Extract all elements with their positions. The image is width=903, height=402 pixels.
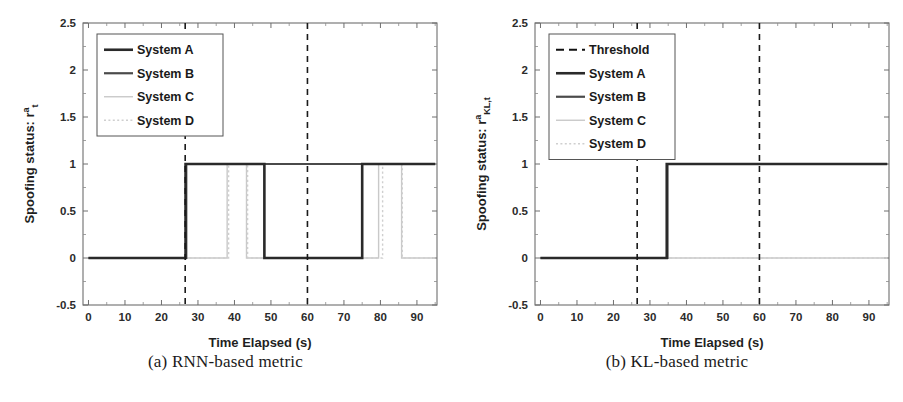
panel-b: 0102030405060708090-0.500.511.522.5Time …: [452, 0, 903, 402]
x-tick-label: 10: [119, 311, 132, 323]
legend-label-system-b: System B: [589, 90, 646, 104]
x-tick-label: 40: [228, 311, 241, 323]
y-tick-label: -0.5: [508, 299, 528, 311]
x-tick-label: 20: [155, 311, 168, 323]
x-axis-title: Time Elapsed (s): [660, 335, 763, 350]
x-tick-label: 80: [374, 311, 387, 323]
legend: ThresholdSystem ASystem BSystem CSystem …: [549, 34, 675, 160]
legend-label-system-a: System A: [589, 67, 646, 81]
x-axis-title: Time Elapsed (s): [208, 335, 311, 350]
x-tick-label: 20: [607, 311, 620, 323]
x-tick-label: 10: [570, 311, 583, 323]
legend-label-system-c: System C: [589, 114, 646, 128]
panel-a: 0102030405060708090-0.500.511.522.5Time …: [0, 0, 452, 402]
legend-label-system-d: System D: [589, 137, 646, 151]
x-tick-label: 70: [789, 311, 802, 323]
x-tick-label: 40: [680, 311, 693, 323]
figure-container: 0102030405060708090-0.500.511.522.5Time …: [0, 0, 903, 402]
panel-b-caption: (b) KL-based metric: [452, 352, 903, 372]
x-tick-label: 30: [643, 311, 656, 323]
y-tick-label: 1.5: [60, 111, 77, 123]
y-tick-label: 0: [70, 252, 76, 264]
y-tick-label: 1.5: [512, 111, 529, 123]
x-tick-label: 50: [716, 311, 729, 323]
y-tick-label: 2.5: [60, 17, 77, 29]
x-tick-label: 30: [192, 311, 205, 323]
legend-label-system-a: System A: [137, 43, 194, 57]
y-tick-label: 0: [521, 252, 527, 264]
legend-label-system-d: System D: [137, 114, 194, 128]
y-tick-label: 1: [521, 158, 528, 170]
x-tick-label: 50: [265, 311, 278, 323]
x-tick-label: 0: [537, 311, 543, 323]
x-tick-label: 60: [753, 311, 766, 323]
y-tick-label: 0.5: [512, 205, 529, 217]
legend-label-system-c: System C: [137, 90, 194, 104]
panel-a-chart: 0102030405060708090-0.500.511.522.5Time …: [0, 0, 451, 352]
x-tick-label: 0: [85, 311, 91, 323]
y-tick-label: -0.5: [56, 299, 76, 311]
legend: System ASystem BSystem CSystem D: [97, 34, 223, 136]
y-tick-label: 2: [70, 64, 76, 76]
x-tick-label: 60: [301, 311, 314, 323]
x-tick-label: 90: [411, 311, 424, 323]
panel-b-chart: 0102030405060708090-0.500.511.522.5Time …: [452, 0, 903, 352]
y-axis-title: Spoofing status: raKL,t: [473, 97, 492, 231]
y-tick-label: 2: [521, 64, 527, 76]
panel-a-caption: (a) RNN-based metric: [0, 352, 451, 372]
y-tick-label: 1: [70, 158, 77, 170]
y-tick-label: 2.5: [512, 17, 529, 29]
legend-label-system-b: System B: [137, 67, 194, 81]
y-axis-title: Spoofing status: rat: [21, 104, 40, 223]
y-tick-label: 0.5: [60, 205, 77, 217]
legend-label-threshold: Threshold: [589, 43, 649, 57]
x-tick-label: 80: [826, 311, 839, 323]
x-tick-label: 70: [338, 311, 351, 323]
x-tick-label: 90: [862, 311, 875, 323]
